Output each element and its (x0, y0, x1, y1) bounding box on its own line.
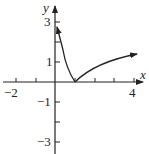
y-axis-label: y (41, 0, 49, 15)
graph: x y −2 4 3 1 −1 −3 (0, 0, 149, 154)
y-tick-label-3: 3 (44, 14, 51, 29)
x-tick-label-4: 4 (129, 85, 136, 100)
y-tick-label-neg3: −3 (37, 134, 51, 149)
x-axis-label: x (139, 67, 146, 82)
right-branch-curve (75, 54, 137, 82)
x-tick-label-neg2: −2 (4, 85, 18, 100)
left-branch-curve (57, 27, 75, 82)
y-tick-label-neg1: −1 (37, 94, 51, 109)
y-tick-label-1: 1 (46, 54, 53, 69)
